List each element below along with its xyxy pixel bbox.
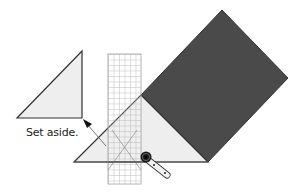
quilt-cutting-diagram [0, 0, 304, 196]
set-aside-caption: Set aside. [26, 126, 78, 139]
set-aside-triangle [17, 51, 82, 118]
quilting-ruler [108, 54, 141, 184]
